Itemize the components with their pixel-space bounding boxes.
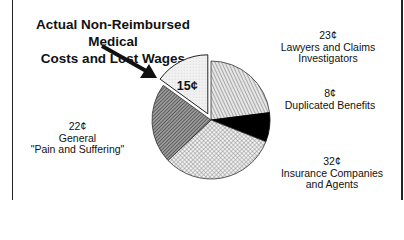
label-insurance-value: 32¢ [272, 156, 392, 168]
label-lawyers-line-2: Investigators [268, 53, 388, 65]
arrow-icon [102, 46, 157, 78]
label-lawyers: 23¢ Lawyers and Claims Investigators [268, 30, 388, 65]
label-insurance-line-2: and Agents [272, 179, 392, 191]
label-pain-line-2: "Pain and Suffering" [20, 144, 135, 156]
label-lawyers-value: 23¢ [268, 30, 388, 42]
label-pain-value: 22¢ [20, 121, 135, 133]
slice-actual-value: 15¢ [177, 79, 198, 93]
label-duplicated-line-1: Duplicated Benefits [275, 100, 385, 112]
label-pain: 22¢ General "Pain and Suffering" [20, 121, 135, 156]
label-insurance: 32¢ Insurance Companies and Agents [272, 156, 392, 191]
slice-lawyers [211, 61, 270, 120]
label-duplicated: 8¢ Duplicated Benefits [275, 88, 385, 111]
label-duplicated-value: 8¢ [275, 88, 385, 100]
